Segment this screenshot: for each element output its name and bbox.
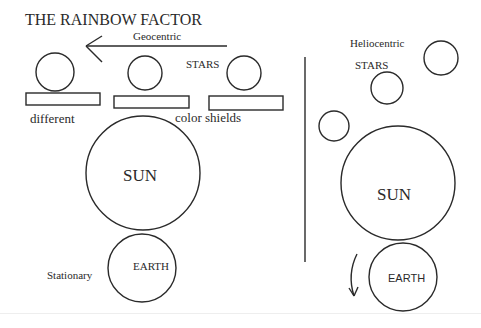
diagram-title: THE RAINBOW FACTOR (25, 11, 202, 28)
color-shield-3 (209, 96, 283, 110)
shields-label-different: different (30, 111, 75, 126)
helio-earth-label: EARTH (388, 272, 425, 284)
helio-star-1 (424, 41, 458, 75)
diagram-canvas: THE RAINBOW FACTOR Geocentric STARS diff… (0, 0, 481, 328)
geo-sun-label: SUN (123, 166, 157, 185)
curved-arrow-icon (349, 254, 358, 296)
geo-stars-label: STARS (186, 58, 219, 70)
geocentric-label: Geocentric (133, 30, 181, 42)
geo-star-2 (128, 56, 162, 90)
heliocentric-label: Heliocentric (350, 37, 404, 49)
color-shield-2 (114, 96, 189, 108)
helio-star-3 (319, 111, 349, 141)
geo-star-1 (36, 53, 74, 91)
helio-sun-label: SUN (377, 185, 411, 204)
rainbow-factor-diagram: THE RAINBOW FACTOR Geocentric STARS diff… (0, 0, 481, 328)
helio-stars-label: STARS (355, 59, 388, 71)
helio-star-2 (371, 72, 403, 104)
bottom-rule (0, 313, 481, 314)
geocentric-panel: Geocentric STARS different color shields… (26, 30, 283, 302)
color-shield-1 (26, 93, 100, 105)
geo-star-3 (227, 56, 261, 90)
heliocentric-panel: Heliocentric STARS SUN EARTH (319, 37, 458, 311)
helio-sun (341, 126, 455, 240)
stationary-label: Stationary (47, 269, 93, 281)
geo-earth-label: EARTH (133, 260, 169, 272)
shields-label-color-shields: color shields (175, 110, 241, 125)
